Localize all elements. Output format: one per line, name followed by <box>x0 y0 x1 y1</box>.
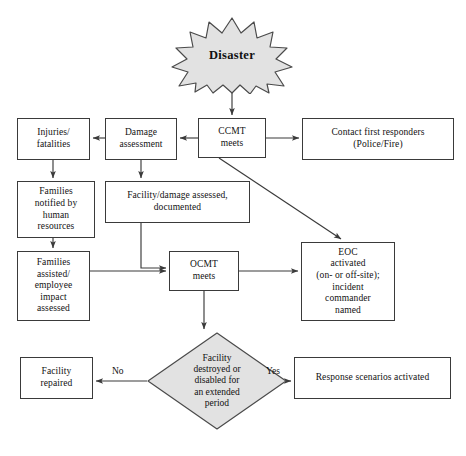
node-injuries-fatalities-label: Injuries/ fatalities <box>34 127 74 150</box>
node-ocmt-meets: OCMT meets <box>169 251 239 291</box>
node-injuries-fatalities: Injuries/ fatalities <box>17 118 90 160</box>
node-ccmt-meets-label: CCMT meets <box>215 126 248 149</box>
node-facility-damage-assessed-label: Facility/damage assessed, documented <box>124 190 231 213</box>
node-families-assisted: Families assisted/ employee impact asses… <box>17 251 90 321</box>
node-ccmt-meets: CCMT meets <box>198 118 266 158</box>
decision-node-facility-destroyed: Facility destroyed or disabled for an ex… <box>147 332 287 430</box>
flowchart-canvas: Disaster CCMT meets Contact first respon… <box>0 0 466 456</box>
node-ocmt-meets-label: OCMT meets <box>187 259 221 282</box>
node-facility-repaired-label: Facility repaired <box>38 366 76 389</box>
edge-label-no: No <box>112 366 124 376</box>
node-families-notified-label: Families notified by human resources <box>32 186 81 232</box>
node-families-assisted-label: Families assisted/ employee impact asses… <box>32 257 76 315</box>
start-node-label: Disaster <box>209 48 255 63</box>
node-facility-damage-assessed: Facility/damage assessed, documented <box>105 181 250 223</box>
node-eoc-activated: EOC activated (on- or off-site); inciden… <box>301 242 395 321</box>
node-response-scenarios-activated-label: Response scenarios activated <box>313 372 433 384</box>
node-eoc-activated-label: EOC activated (on- or off-site); inciden… <box>313 247 382 316</box>
node-facility-repaired: Facility repaired <box>20 357 93 399</box>
decision-node-label: Facility destroyed or disabled for an ex… <box>193 353 240 410</box>
node-families-notified: Families notified by human resources <box>17 181 95 238</box>
edge-facility-assessed-ocmt <box>141 223 166 268</box>
node-response-scenarios-activated: Response scenarios activated <box>294 357 451 399</box>
node-damage-assessment-label: Damage assessment <box>116 127 165 150</box>
edge-label-yes: Yes <box>266 366 280 376</box>
start-node-disaster: Disaster <box>170 16 294 94</box>
node-damage-assessment: Damage assessment <box>105 118 177 160</box>
node-contact-first-responders-label: Contact first responders (Police/Fire) <box>328 127 427 150</box>
node-contact-first-responders: Contact first responders (Police/Fire) <box>302 118 454 160</box>
